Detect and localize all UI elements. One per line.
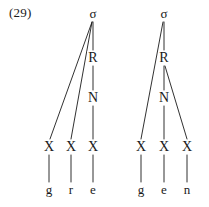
tree-node-L-X2: X (65, 140, 77, 154)
tree-node-R-X1: X (135, 140, 147, 154)
tree-edge-layer (0, 0, 209, 207)
tree-node-R-X2: X (158, 140, 170, 154)
tree-node-R-sigma: σ (159, 7, 168, 21)
tree-node-L-seg1: g (45, 183, 54, 197)
tree-node-L-X3: X (87, 140, 99, 154)
tree-node-L-X1: X (43, 140, 55, 154)
tree-node-L-N: N (87, 91, 99, 105)
tree-edge-R-sigma-to-R-X1 (141, 22, 163, 139)
tree-node-L-seg2: r (68, 183, 74, 197)
tree-node-R-seg1: g (137, 183, 146, 197)
tree-node-R-X3: X (181, 140, 193, 154)
tree-node-L-seg3: e (89, 183, 97, 197)
tree-edge-L-sigma-to-L-X2 (71, 22, 92, 139)
tree-node-L-R: R (87, 51, 98, 65)
tree-edge-L-sigma-to-L-X1 (50, 22, 92, 139)
tree-node-R-seg3: n (183, 183, 192, 197)
example-number-label: (29) (9, 5, 31, 20)
tree-node-R-N: N (158, 91, 170, 105)
tree-node-R-R: R (158, 51, 169, 65)
tree-node-R-seg2: e (160, 183, 168, 197)
figure-canvas: (29) σRNXXXgreσRNXXXgen (0, 0, 209, 207)
tree-node-L-sigma: σ (88, 7, 97, 21)
